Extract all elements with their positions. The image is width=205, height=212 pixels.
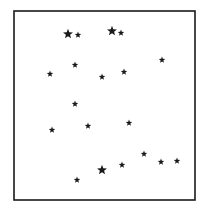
star-icon [119,162,125,168]
stars-group [47,26,180,183]
star-icon [47,71,53,77]
star-icon [121,69,127,75]
large-star-icon [107,26,117,35]
star-icon [74,177,80,183]
star-icon [49,127,55,133]
star-field-diagram [0,0,205,212]
large-star-icon [63,29,73,38]
star-icon [158,159,164,165]
star-icon [75,32,81,38]
diagram-frame [14,11,195,200]
star-icon [85,123,91,129]
star-icon [99,74,105,80]
large-star-icon [97,165,107,174]
star-icon [159,57,165,63]
star-icon [72,101,78,107]
star-icon [126,120,132,126]
star-icon [118,30,124,36]
star-icon [174,158,180,164]
star-icon [72,62,78,68]
star-icon [141,151,147,157]
